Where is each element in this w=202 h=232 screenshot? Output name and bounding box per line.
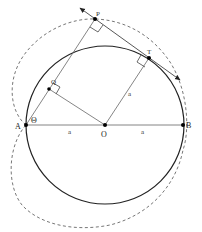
point-T	[147, 56, 151, 60]
label-theta: Θ	[31, 116, 37, 125]
label-a-OT: a	[128, 90, 132, 98]
label-T: T	[147, 48, 152, 56]
label-B: B	[186, 121, 191, 130]
right-angle-P	[90, 25, 103, 32]
radius-OT	[105, 58, 149, 125]
label-O: O	[101, 130, 107, 139]
label-a-AO: a	[68, 128, 72, 136]
line-OQ	[49, 89, 105, 125]
point-Q	[47, 87, 51, 91]
label-P: P	[96, 10, 100, 18]
geometry-diagram: A Θ O B P T Q a a a	[0, 0, 202, 232]
point-O	[103, 123, 107, 127]
pedal-curve-dashed	[11, 19, 187, 228]
label-Q: Q	[51, 78, 56, 86]
label-A: A	[15, 122, 21, 131]
point-B	[181, 123, 185, 127]
line-AP	[26, 19, 95, 125]
label-a-OB: a	[141, 128, 145, 136]
point-A	[24, 123, 28, 127]
